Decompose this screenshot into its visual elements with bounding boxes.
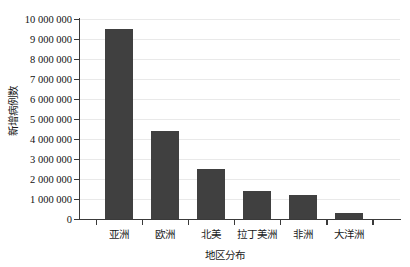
bar[interactable] — [151, 131, 179, 219]
x-axis-category-label: 欧洲 — [155, 226, 175, 241]
bar[interactable] — [243, 191, 271, 219]
y-axis-tick-mark — [74, 119, 80, 120]
x-axis-title: 地区分布 — [0, 247, 410, 262]
x-axis-category-label: 大洋洲 — [334, 226, 364, 241]
x-axis-tick-mark — [96, 220, 97, 225]
y-axis-tick-labels: 10 000 0009 000 0008 000 0007 000 0006 0… — [18, 0, 76, 267]
bar[interactable] — [197, 169, 225, 219]
y-axis-tick-label: 10 000 000 — [25, 14, 72, 25]
x-axis-tick-mark — [372, 220, 373, 225]
y-axis-tick-label: 6 000 000 — [30, 94, 72, 105]
bar[interactable] — [105, 29, 133, 219]
y-axis-tick-label: 7 000 000 — [30, 74, 72, 85]
y-axis-tick-label: 9 000 000 — [30, 34, 72, 45]
y-axis-tick-mark — [74, 39, 80, 40]
x-axis-category-label: 拉丁美洲 — [237, 226, 277, 241]
y-axis-tick-label: 0 — [67, 214, 72, 225]
y-axis-tick-mark — [74, 199, 80, 200]
y-axis-tick-label: 5 000 000 — [30, 114, 72, 125]
y-axis-tick-label: 1 000 000 — [30, 194, 72, 205]
x-axis-tick-mark — [188, 220, 189, 225]
x-axis-tick-mark — [234, 220, 235, 225]
x-axis-tick-mark — [280, 220, 281, 225]
y-axis-tick-label: 3 000 000 — [30, 154, 72, 165]
y-axis-tick-mark — [74, 79, 80, 80]
y-axis-tick-mark — [74, 59, 80, 60]
y-axis-tick-label: 2 000 000 — [30, 174, 72, 185]
x-axis-category-label: 北美 — [201, 226, 221, 241]
x-axis-tick-mark — [142, 220, 143, 225]
y-axis-tick-label: 4 000 000 — [30, 134, 72, 145]
y-axis-tick-mark — [74, 179, 80, 180]
x-axis-category-label: 非洲 — [293, 226, 313, 241]
x-axis-tick-mark — [326, 220, 327, 225]
y-axis-tick-mark — [74, 19, 80, 20]
x-axis-category-label: 亚洲 — [109, 226, 129, 241]
x-axis-line — [79, 219, 401, 220]
y-axis-tick-mark — [74, 99, 80, 100]
bars-layer — [80, 19, 400, 219]
y-axis-tick-mark — [74, 219, 80, 220]
y-axis-tick-label: 8 000 000 — [30, 54, 72, 65]
y-axis-tick-mark — [74, 159, 80, 160]
y-axis-tick-mark — [74, 139, 80, 140]
bar-chart: 新增病例数 10 000 0009 000 0008 000 0007 000 … — [0, 0, 410, 267]
bar[interactable] — [289, 195, 317, 219]
x-axis-title-text: 地区分布 — [165, 250, 245, 261]
